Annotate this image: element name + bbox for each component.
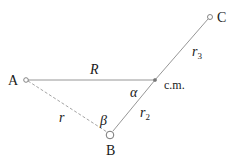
label-R: R	[89, 62, 99, 77]
label-r2-subscript: 2	[145, 112, 150, 122]
label-cm: c.m.	[164, 78, 185, 92]
point-A-marker	[24, 78, 29, 83]
label-A: A	[8, 73, 19, 88]
point-C-marker	[208, 15, 213, 20]
label-r3-subscript: 3	[197, 51, 202, 61]
point-B-marker	[106, 131, 114, 139]
label-r2: r2	[140, 105, 150, 122]
point-cm-marker	[153, 78, 156, 81]
segment-r-dashed	[28, 81, 107, 132]
label-C: C	[217, 10, 226, 25]
jacobi-diagram: A B C c.m. R r α β r2 r3	[0, 0, 236, 161]
segment-r3	[155, 19, 208, 80]
label-beta: β	[99, 113, 107, 128]
label-r3: r3	[192, 44, 202, 61]
label-r: r	[59, 110, 65, 125]
label-alpha: α	[130, 85, 138, 100]
label-B: B	[106, 143, 115, 158]
